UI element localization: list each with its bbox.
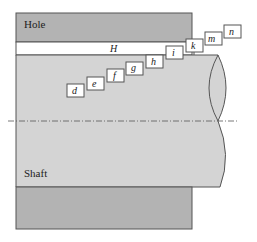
- deviation-box-f: f: [107, 69, 124, 82]
- svg-text:n: n: [229, 26, 234, 37]
- deviation-box-i: i: [166, 46, 183, 59]
- hole-deviation-label: H: [109, 43, 118, 54]
- svg-text:i: i: [172, 47, 175, 58]
- hole-shaft-fit-diagram: Hole Shaft H d e f g h i k m n: [0, 0, 257, 242]
- svg-text:k: k: [191, 40, 196, 51]
- deviation-box-e: e: [87, 77, 104, 90]
- deviation-box-d: d: [67, 84, 84, 97]
- deviation-box-h: h: [146, 55, 163, 68]
- deviation-box-n: n: [224, 25, 241, 38]
- shaft-label: Shaft: [24, 167, 47, 179]
- deviation-box-m: m: [205, 32, 222, 45]
- deviation-box-g: g: [126, 62, 143, 75]
- svg-text:e: e: [92, 78, 97, 89]
- svg-text:g: g: [131, 62, 136, 73]
- hole-label: Hole: [24, 18, 46, 30]
- svg-text:h: h: [151, 56, 156, 67]
- svg-text:m: m: [208, 33, 215, 44]
- hole-bottom-block: [16, 187, 192, 229]
